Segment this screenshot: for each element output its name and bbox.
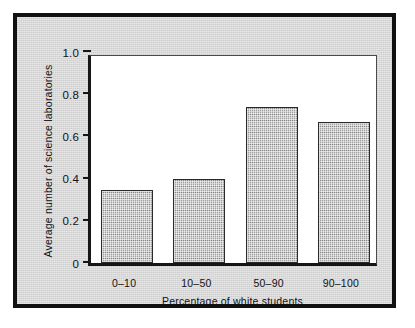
y-axis-tick — [83, 50, 91, 52]
y-axis-tick — [83, 92, 91, 94]
y-axis-tick-label: 0.2 — [62, 215, 79, 227]
plot-area: 00.20.40.60.81.0 — [88, 55, 377, 266]
x-axis-title: Percentage of white students — [88, 295, 377, 307]
bar — [101, 190, 153, 263]
y-axis-tick-label: 0.8 — [62, 89, 79, 101]
y-axis-tick-label: 0 — [72, 258, 79, 270]
y-axis-tick-label: 1.0 — [62, 47, 79, 59]
x-axis-tick-label: 0–10 — [112, 277, 136, 289]
y-axis-title-label: Average number of science laboratories — [41, 64, 53, 257]
x-axis-tick-label: 50–90 — [254, 277, 284, 289]
bar-series — [91, 56, 376, 263]
figure: Average number of science laboratories 0… — [0, 0, 415, 328]
y-axis-tick — [83, 219, 91, 221]
y-axis-tick — [83, 177, 91, 179]
bar — [173, 179, 225, 263]
y-axis-tick-label: 0.6 — [62, 131, 79, 143]
x-axis-tick-label: 90–100 — [323, 277, 359, 289]
y-axis-tick-label: 0.4 — [62, 173, 79, 185]
y-axis-tick — [83, 261, 91, 263]
y-axis-title: Average number of science laboratories — [39, 55, 55, 266]
y-axis-tick — [83, 134, 91, 136]
x-axis-tick-label: 10–50 — [181, 277, 211, 289]
bar — [318, 122, 370, 263]
figure-frame: Average number of science laboratories 0… — [13, 13, 396, 308]
x-axis-title-label: Percentage of white students — [162, 295, 303, 307]
bar — [246, 107, 298, 263]
